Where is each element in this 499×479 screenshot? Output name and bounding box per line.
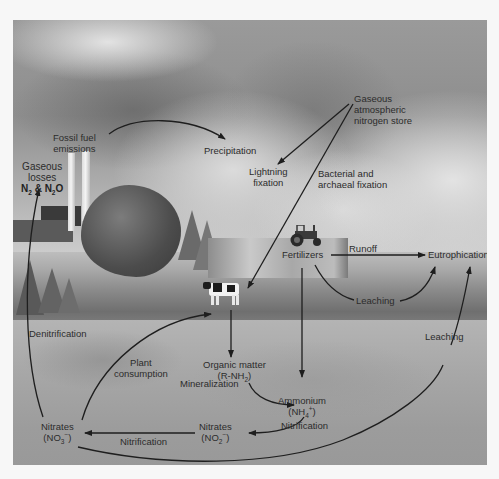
formula-no2: (NO2−) (199, 432, 232, 443)
label-fossil-fuel-emissions: Fossil fuel emissions (53, 132, 96, 154)
label-lightning-fixation: Lightning fixation (249, 166, 288, 188)
arrow-denitrification (27, 189, 43, 417)
label-nitrites-no2: Nitrates (NO2−) (199, 421, 232, 443)
label-bacterial-archaeal-fixation: Bacterial and archaeal fixation (318, 168, 387, 190)
label-gaseous-atmospheric-store: Gaseous atmospheric nitrogen store (354, 93, 412, 126)
label-gaseous-losses: Gaseous losses N2 & N2O (21, 161, 63, 194)
label-plant-consumption: Plant consumption (114, 357, 168, 379)
arrow-fossil-to-precipitation (109, 121, 225, 139)
arrow-leaching-to-eutrophication (400, 267, 435, 301)
label-runoff: Runoff (349, 243, 377, 254)
label-mineralization: Mineralization (180, 378, 239, 389)
label-leaching-fertilizers: Leaching (356, 295, 395, 306)
label-eutrophication: Eutrophication (428, 249, 487, 260)
label-nitrification-right: Nitrification (281, 420, 328, 431)
formula-no3: (NO3−) (41, 432, 74, 443)
label-denitrification: Denitrification (29, 328, 87, 339)
label-fertilizers: Fertilizers (282, 249, 323, 260)
label-precipitation: Precipitation (204, 145, 256, 156)
arrow-store-to-field (248, 104, 353, 288)
arrow-store-to-lightning (278, 104, 349, 164)
label-ammonium: Ammonium (NH4+) (278, 395, 326, 417)
label-nitrates-no3: Nitrates (NO3−) (41, 421, 74, 443)
label-nitrification-left: Nitrification (120, 436, 167, 447)
formula-nh4: (NH4+) (278, 406, 326, 417)
formula-n2-n2o: N2 & N2O (21, 183, 63, 194)
label-leaching-right: Leaching (425, 331, 464, 342)
arrow-fertilizer-leaching (315, 265, 354, 300)
cycle-arrows (13, 20, 487, 465)
nitrogen-cycle-diagram: Fossil fuel emissions Precipitation Gase… (13, 20, 487, 465)
